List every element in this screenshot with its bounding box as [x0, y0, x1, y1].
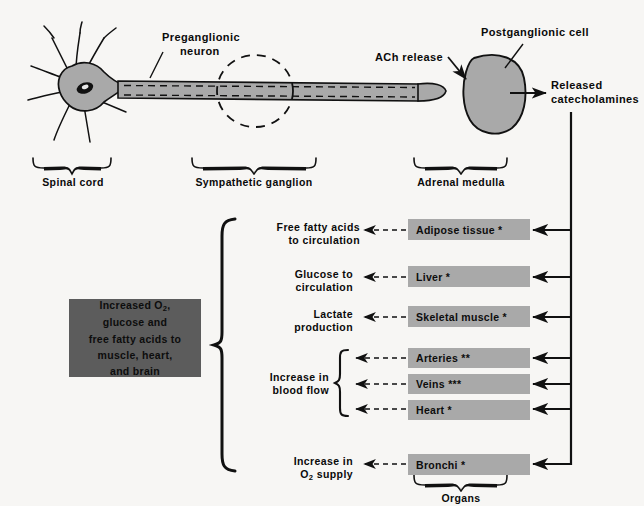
- effects-box-line2: glucose and: [103, 316, 168, 328]
- effect-o2-supply-line2-pre: O: [300, 468, 309, 480]
- organ-box-skeletal-muscle[interactable]: Skeletal muscle *: [408, 306, 530, 327]
- brace-all-effects: [214, 219, 235, 471]
- organ-supply-arrows: [533, 230, 571, 464]
- effects-box-line4: muscle, heart,: [98, 349, 173, 361]
- effect-label-free-fatty-acids: Free fatty acids to circulation: [235, 221, 360, 247]
- region-label-adrenal-medulla: Adrenal medulla: [401, 176, 521, 189]
- effect-blood-flow-line1: Increase in: [270, 371, 329, 383]
- organ-box-adipose-tissue[interactable]: Adipose tissue *: [408, 219, 530, 240]
- effect-blood-flow-line2: blood flow: [273, 384, 330, 396]
- preganglionic-neuron-label-line1: Preganglionic: [162, 31, 240, 43]
- organ-label-veins: Veins ***: [416, 378, 461, 390]
- brace-sympathetic-ganglion: [192, 158, 316, 174]
- effect-label-blood-flow: Increase in blood flow: [225, 371, 329, 397]
- released-catecholamines-label: Released catecholamines: [551, 79, 639, 107]
- effects-summary-box: Increased O2, glucose and free fatty aci…: [69, 299, 201, 377]
- effect-lactate-line1: Lactate: [313, 308, 353, 320]
- organ-box-veins[interactable]: Veins ***: [408, 374, 530, 394]
- preganglionic-neuron-label-line2: neuron: [180, 45, 220, 59]
- effect-o2-supply-line1: Increase in: [294, 455, 353, 467]
- preganglionic-neuron-label: Preganglionic neuron: [162, 31, 240, 59]
- effect-glucose-line1: Glucose to: [295, 268, 353, 280]
- organ-box-arteries[interactable]: Arteries **: [408, 348, 530, 368]
- figure-canvas: Preganglionic neuron ACh release Postgan…: [0, 0, 644, 506]
- effect-free-fatty-acids-line1: Free fatty acids: [277, 221, 360, 233]
- effect-free-fatty-acids-line2: to circulation: [288, 234, 360, 246]
- effects-box-line5: and brain: [110, 365, 160, 377]
- brace-organs: [414, 475, 507, 491]
- organ-label-bronchi: Bronchi *: [416, 459, 465, 471]
- organ-label-heart: Heart *: [416, 404, 452, 416]
- effects-box-line1-post: ,: [167, 299, 170, 311]
- region-label-sympathetic-ganglion: Sympathetic ganglion: [184, 176, 324, 189]
- effects-box-line1-pre: Increased O: [99, 299, 162, 311]
- organ-label-skeletal-muscle: Skeletal muscle *: [416, 311, 507, 323]
- preganglionic-neuron-soma: [28, 22, 126, 142]
- organ-box-heart[interactable]: Heart *: [408, 400, 530, 420]
- released-catecholamines-line1: Released: [551, 79, 603, 91]
- effect-label-o2-supply: Increase in O2 supply: [235, 455, 353, 483]
- brace-spinal-cord: [33, 158, 111, 174]
- organ-label-liver: Liver *: [416, 271, 450, 283]
- effect-label-lactate: Lactate production: [235, 308, 353, 334]
- diagram-graphics: [0, 0, 644, 506]
- organ-label-arteries: Arteries **: [416, 352, 470, 364]
- effect-lactate-line2: production: [294, 321, 353, 333]
- brace-blood-flow: [335, 350, 348, 416]
- ach-release-arrow: [448, 57, 466, 79]
- effect-glucose-line2: circulation: [296, 281, 354, 293]
- organ-label-adipose-tissue: Adipose tissue *: [416, 224, 503, 236]
- effect-o2-supply-line2-post: supply: [313, 468, 353, 480]
- organ-box-liver[interactable]: Liver *: [408, 266, 530, 287]
- effect-label-glucose: Glucose to circulation: [235, 268, 353, 294]
- postganglionic-cell-shape: [463, 55, 525, 134]
- organ-box-bronchi[interactable]: Bronchi *: [408, 454, 530, 475]
- ach-release-label: ACh release: [375, 51, 443, 65]
- organs-group-label: Organs: [411, 492, 511, 505]
- postganglionic-cell-label: Postganglionic cell: [481, 26, 589, 40]
- effects-box-line3: free fatty acids to: [89, 333, 182, 345]
- axon: [118, 81, 446, 101]
- region-label-spinal-cord: Spinal cord: [23, 176, 123, 189]
- released-catecholamines-line2: catecholamines: [551, 93, 639, 105]
- effect-arrows: [356, 230, 406, 464]
